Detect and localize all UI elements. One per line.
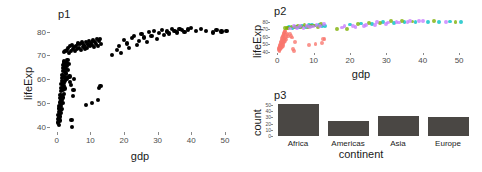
p1-x-axis-label: gdp bbox=[60, 150, 220, 162]
p1-data-point bbox=[132, 34, 136, 38]
p1-data-point bbox=[194, 29, 198, 33]
p1-data-point bbox=[145, 40, 149, 44]
p2-x-tick-label: 0 bbox=[275, 56, 279, 65]
p2-data-point-europe bbox=[386, 21, 390, 25]
p1-data-point bbox=[115, 48, 119, 52]
p3-y-tickmark bbox=[271, 117, 273, 118]
p1-data-point bbox=[99, 42, 103, 46]
p2-data-point-americas bbox=[448, 20, 452, 24]
p1-data-point bbox=[219, 29, 223, 33]
p2-y-tickmark bbox=[268, 44, 270, 45]
p1-data-point bbox=[59, 111, 63, 115]
p2-y-tick-label: 60 bbox=[256, 34, 268, 40]
p3-x-tick-label: Americas bbox=[331, 139, 364, 148]
p2-data-point-americas bbox=[426, 20, 430, 24]
p3-y-tick-label: 10 bbox=[259, 127, 271, 133]
p1-x-tickmark bbox=[124, 132, 125, 135]
p2-x-tickmark bbox=[423, 53, 424, 55]
p2-x-tickmark bbox=[386, 53, 387, 55]
p1-data-point bbox=[67, 62, 71, 66]
p1-title: p1 bbox=[58, 8, 71, 20]
p2-title: p2 bbox=[274, 5, 287, 17]
p2-data-point-africa bbox=[314, 42, 318, 46]
p2-data-point-africa bbox=[292, 49, 296, 53]
p3-y-tickmark bbox=[271, 136, 273, 137]
p1-y-tickmark bbox=[47, 127, 50, 128]
p3-y-tick-label: 30 bbox=[259, 114, 271, 120]
p1-x-tick-label: 10 bbox=[86, 136, 95, 145]
p1-data-point bbox=[137, 39, 141, 43]
p2-y-tick-label: 40 bbox=[256, 49, 268, 55]
p1-data-point bbox=[98, 84, 102, 88]
p1-data-point bbox=[60, 107, 64, 111]
p2-data-point-europe bbox=[421, 19, 425, 23]
p2-data-point-europe bbox=[354, 25, 358, 29]
p1-x-tickmark bbox=[191, 132, 192, 135]
p3-y-tick-label: 20 bbox=[259, 121, 271, 127]
p2-y-tick-label: 70 bbox=[256, 26, 268, 32]
p1-data-point bbox=[62, 92, 66, 96]
p1-data-point bbox=[96, 98, 100, 102]
p1-data-point bbox=[57, 123, 61, 127]
p1-data-point bbox=[204, 29, 208, 33]
p1-x-tick-label: 50 bbox=[220, 136, 229, 145]
p3-y-tickmark bbox=[271, 111, 273, 112]
p3-y-tickmark bbox=[271, 130, 273, 131]
p2-x-tickmark bbox=[459, 53, 460, 55]
p2-y-tickmark bbox=[268, 22, 270, 23]
p2-y-tick-label: 50 bbox=[256, 41, 268, 47]
p1-x-tick-label: 0 bbox=[54, 136, 58, 145]
p1-data-point bbox=[110, 53, 114, 57]
p1-y-tickmark bbox=[47, 103, 50, 104]
p2-data-point-asia bbox=[356, 22, 360, 26]
p2-x-tickmark bbox=[314, 53, 315, 55]
p2-x-tickmark bbox=[350, 53, 351, 55]
p1-y-tickmark bbox=[47, 79, 50, 80]
p3-y-tickmark bbox=[271, 105, 273, 106]
p2-y-tickmark bbox=[268, 52, 270, 53]
p3-bar bbox=[428, 117, 469, 136]
p2-x-tickmark bbox=[277, 53, 278, 55]
p1-data-point bbox=[125, 41, 129, 45]
p2-x-tick-label: 50 bbox=[455, 56, 464, 65]
p2-x-axis-label: gdp bbox=[266, 68, 456, 80]
p1-data-point bbox=[167, 31, 171, 35]
p2-data-point-americas bbox=[437, 20, 441, 24]
p1-x-tickmark bbox=[90, 132, 91, 135]
p1-data-point bbox=[152, 29, 156, 33]
p1-data-point bbox=[135, 43, 139, 47]
p1-y-tickmark bbox=[47, 32, 50, 33]
p1-data-point bbox=[175, 30, 179, 34]
p1-data-point bbox=[60, 101, 64, 105]
p2-y-tickmark bbox=[268, 29, 270, 30]
p1-data-point bbox=[84, 103, 88, 107]
p2-data-point-asia bbox=[335, 27, 339, 31]
panel-p3: p3 count continent AfricaAmericasAsiaEur… bbox=[241, 86, 482, 172]
p3-y-tickmark bbox=[271, 124, 273, 125]
p1-data-point bbox=[66, 68, 70, 72]
p2-x-tick-label: 20 bbox=[346, 56, 355, 65]
p1-y-tick-label: 50 bbox=[24, 99, 46, 108]
p2-data-point-asia bbox=[432, 19, 436, 23]
p2-x-tick-label: 30 bbox=[382, 56, 391, 65]
p1-data-point bbox=[224, 29, 228, 33]
p2-y-tickmark bbox=[268, 37, 270, 38]
p3-x-tick-label: Europe bbox=[435, 139, 461, 148]
p3-x-tick-label: Asia bbox=[390, 139, 406, 148]
p1-x-tickmark bbox=[57, 132, 58, 135]
p3-y-tick-label: 0 bbox=[259, 133, 271, 139]
p3-plot-area bbox=[273, 102, 473, 136]
p3-bar bbox=[378, 116, 419, 136]
p1-y-tick-label: 80 bbox=[24, 27, 46, 36]
p1-y-tick-label: 60 bbox=[24, 75, 46, 84]
p1-data-point bbox=[142, 35, 146, 39]
p1-x-tick-label: 30 bbox=[153, 136, 162, 145]
p2-x-tick-label: 10 bbox=[309, 56, 318, 65]
p1-data-point bbox=[70, 125, 74, 129]
p3-x-tick-label: Africa bbox=[288, 139, 308, 148]
p1-data-point bbox=[90, 101, 94, 105]
panel-p1: p1 lifeExp gdp 010203040504050607080 bbox=[0, 0, 241, 172]
p1-data-point bbox=[69, 83, 73, 87]
p1-data-point bbox=[214, 28, 218, 32]
p1-data-point bbox=[62, 86, 66, 90]
